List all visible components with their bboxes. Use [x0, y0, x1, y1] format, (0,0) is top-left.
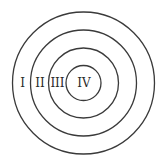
- label-region-i: I: [20, 76, 25, 90]
- label-region-iii: III: [50, 76, 64, 90]
- concentric-circles-diagram: I II III IV: [0, 0, 164, 165]
- label-region-iv: IV: [77, 76, 91, 90]
- label-region-ii: II: [35, 76, 45, 90]
